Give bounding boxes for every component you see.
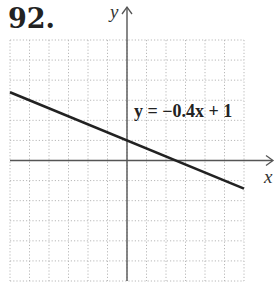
graph-figure: 92. x y y = −0.4x + 1 bbox=[0, 0, 277, 291]
problem-number: 92. bbox=[8, 3, 55, 34]
x-axis-label: x bbox=[263, 166, 273, 187]
equation-label: y = −0.4x + 1 bbox=[134, 101, 232, 121]
y-axis-label: y bbox=[108, 1, 119, 22]
